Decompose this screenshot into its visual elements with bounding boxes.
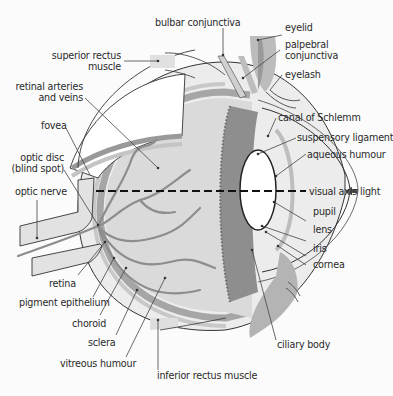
label-optic-disc-1: optic disc xyxy=(20,152,64,163)
eye-anatomy-diagram: bulbar conjunctiva eyelid palpebral conj… xyxy=(0,0,393,396)
label-lens: lens xyxy=(313,224,332,235)
label-ciliary-body: ciliary body xyxy=(277,339,330,350)
label-retinal-vessels-1: retinal arteries xyxy=(15,81,83,92)
label-pigment-epithelium: pigment epithelium xyxy=(19,297,110,308)
label-iris: iris xyxy=(313,243,326,254)
superior-rectus-shape xyxy=(150,55,175,68)
label-superior-rectus-2: muscle xyxy=(88,61,121,72)
label-choroid: choroid xyxy=(72,318,106,329)
label-pupil: pupil xyxy=(313,206,336,217)
label-vitreous-humour: vitreous humour xyxy=(60,358,136,369)
label-visual-axis: visual axis xyxy=(309,186,357,197)
label-bulbar-conjunctiva: bulbar conjunctiva xyxy=(155,17,241,28)
label-retina: retina xyxy=(49,278,76,289)
label-superior-rectus-1: superior rectus xyxy=(52,50,121,61)
label-inferior-rectus-muscle: inferior rectus muscle xyxy=(157,370,257,381)
label-optic-disc-2: (blind spot) xyxy=(12,163,64,174)
label-light: light xyxy=(360,186,380,197)
inferior-rectus-shape xyxy=(150,318,178,330)
label-retinal-vessels-2: and veins xyxy=(38,92,83,103)
label-palpebral-2: conjunctiva xyxy=(285,50,338,61)
label-palpebral-1: palpebral xyxy=(285,39,328,50)
label-canal-of-schlemm: canal of Schlemm xyxy=(278,112,361,123)
label-optic-nerve: optic nerve xyxy=(15,186,67,197)
label-fovea: fovea xyxy=(41,120,67,131)
label-sclera: sclera xyxy=(88,337,115,348)
label-eyelash: eyelash xyxy=(285,69,321,80)
label-suspensory-ligament: suspensory ligament xyxy=(297,132,393,143)
label-cornea: cornea xyxy=(313,259,345,270)
label-aqueous-humour: aqueous humour xyxy=(307,149,386,160)
label-eyelid: eyelid xyxy=(285,22,313,33)
